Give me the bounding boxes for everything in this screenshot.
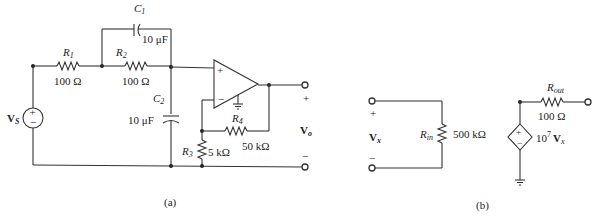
vs-label: VS bbox=[7, 112, 20, 126]
output-terminal-minus bbox=[302, 164, 308, 170]
input-minus: − bbox=[369, 152, 375, 164]
resistor-r4 bbox=[225, 127, 247, 135]
opamp-plus: + bbox=[217, 64, 223, 76]
input-terminal-minus bbox=[369, 165, 375, 171]
r3-value: 5 kΩ bbox=[208, 146, 230, 158]
output-minus: − bbox=[302, 150, 308, 162]
r4-label: R4 bbox=[231, 112, 243, 126]
resistor-rin bbox=[438, 124, 446, 143]
output-terminal-plus bbox=[302, 82, 308, 88]
r1-label: R1 bbox=[62, 46, 74, 60]
dep-plus: + bbox=[516, 127, 521, 137]
opamp-minus: − bbox=[218, 93, 224, 105]
r3-label: R3 bbox=[181, 145, 193, 159]
r2-label: R2 bbox=[115, 46, 127, 60]
rin-value: 500 kΩ bbox=[453, 128, 486, 140]
dep-minus: − bbox=[517, 138, 522, 148]
c2-label: C2 bbox=[153, 92, 164, 106]
c1-value: 10 μF bbox=[142, 33, 168, 45]
resistor-r3 bbox=[198, 140, 206, 159]
r2-value: 100 Ω bbox=[122, 75, 149, 87]
rout-value: 100 Ω bbox=[538, 110, 565, 122]
vx-label: Vx bbox=[369, 131, 381, 145]
caption-a: (a) bbox=[164, 196, 177, 209]
input-plus: + bbox=[370, 107, 376, 119]
resistor-rout bbox=[541, 98, 563, 106]
r1-value: 100 Ω bbox=[54, 75, 81, 87]
c2-value: 10 μF bbox=[128, 114, 154, 126]
rin-label: Rin bbox=[419, 128, 433, 142]
resistor-r1 bbox=[57, 62, 79, 70]
r4-value: 50 kΩ bbox=[242, 140, 269, 152]
output-terminal-b bbox=[585, 99, 591, 105]
vo-label: Vo bbox=[300, 124, 312, 138]
dep-gain-label: 107Vx bbox=[536, 130, 565, 146]
rout-label: Rout bbox=[546, 81, 565, 95]
source-minus: − bbox=[30, 116, 36, 128]
circuit-diagram: + − VS R1 100 Ω C1 10 μF R2 100 Ω C2 10 … bbox=[0, 0, 600, 218]
caption-b: (b) bbox=[476, 199, 489, 212]
output-plus: + bbox=[303, 92, 309, 104]
input-terminal-plus bbox=[369, 98, 375, 104]
resistor-r2 bbox=[125, 62, 147, 70]
c1-label: C1 bbox=[134, 2, 145, 16]
